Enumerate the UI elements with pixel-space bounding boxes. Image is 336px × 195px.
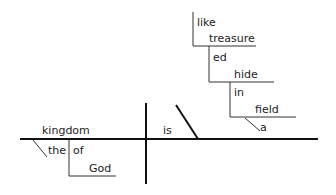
preposition-word: of (73, 144, 85, 157)
like-word: like (197, 16, 216, 29)
verb-word: is (163, 124, 172, 137)
sentence-diagram: kingdom is the of God like treasure ed h… (0, 0, 336, 195)
a-word: a (260, 121, 267, 134)
treasure-word: treasure (209, 32, 255, 45)
field-word: field (255, 103, 279, 116)
complement-slant-line (176, 105, 198, 139)
article-slant-line (33, 140, 47, 157)
hide-word: hide (234, 68, 258, 81)
in-word: in (234, 86, 244, 99)
subject-word: kingdom (42, 124, 90, 137)
ed-word: ed (213, 51, 227, 64)
a-slant-line (245, 118, 260, 131)
article-word: the (48, 144, 66, 157)
prep-object-word: God (89, 162, 111, 175)
